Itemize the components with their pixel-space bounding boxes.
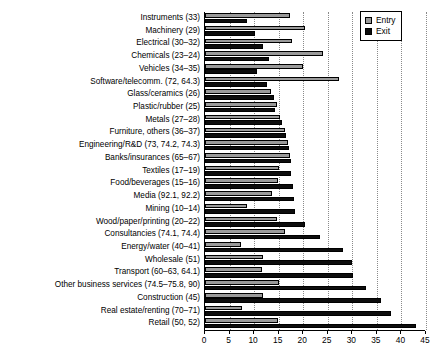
bar-entry [205, 115, 280, 120]
legend-swatch-entry-icon [365, 17, 372, 24]
bar-exit [205, 133, 286, 138]
y-axis-label: Banks/insurances (65–67) [105, 152, 200, 165]
x-axis-tick-labels: 051015202530354045 [204, 334, 425, 348]
x-axis-tick-label: 5 [226, 334, 231, 346]
y-axis-label: Mining (10–14) [145, 203, 200, 216]
y-axis-label: Wholesale (51) [145, 254, 200, 267]
bar-entry [205, 153, 290, 158]
y-axis-label: Instruments (33) [140, 12, 200, 25]
bar-entry [205, 204, 247, 209]
y-axis-label: Retail (50, 52) [149, 317, 200, 330]
bar-entry [205, 293, 263, 298]
bar-exit [205, 31, 255, 36]
bar-exit [205, 44, 263, 49]
x-axis-tick-label: 25 [322, 334, 331, 346]
x-axis-tick-label: 10 [248, 334, 257, 346]
bar-row [205, 177, 425, 190]
y-axis-label: Furniture, others (36–37) [109, 126, 200, 139]
bar-exit [205, 248, 343, 253]
y-axis-label: Other business services (74.5–75.8, 90) [55, 279, 200, 292]
bar-exit [205, 209, 295, 214]
bar-exit [205, 120, 282, 125]
bar-entry [205, 217, 277, 222]
y-axis-label: Transport (60–63, 64.1) [114, 266, 200, 279]
bar-entry [205, 39, 292, 44]
bar-entry [205, 64, 303, 69]
bar-exit [205, 19, 247, 24]
bar-entry [205, 318, 278, 323]
bar-row [205, 279, 425, 292]
bar-exit [205, 159, 291, 164]
y-axis-label: Consultancies (74.1, 74.4) [104, 228, 200, 241]
y-axis-label: Real estate/renting (70–71) [101, 305, 200, 318]
bar-row [205, 165, 425, 178]
bar-exit [205, 222, 305, 227]
bar-exit [205, 171, 291, 176]
x-axis [204, 330, 425, 333]
bar-exit [205, 260, 352, 265]
y-axis-label: Software/telecomm. (72, 64.3) [90, 76, 200, 89]
bar-row [205, 216, 425, 229]
bar-row [205, 152, 425, 165]
bar-exit [205, 95, 274, 100]
bar-entry [205, 255, 263, 260]
bar-row [205, 241, 425, 254]
bar-exit [205, 286, 366, 291]
bar-row [205, 203, 425, 216]
bar-entry [205, 26, 305, 31]
bar-exit [205, 298, 381, 303]
x-axis-tick-label: 45 [420, 334, 429, 346]
bar-row [205, 305, 425, 318]
bar-exit [205, 197, 294, 202]
bar-entry [205, 242, 241, 247]
bar-entry [205, 140, 288, 145]
bar-exit [205, 235, 320, 240]
legend-label-exit: Exit [376, 26, 390, 37]
bar-entry [205, 89, 271, 94]
y-axis-label: Engineering/R&D (73, 74.2, 74.3) [79, 139, 200, 152]
legend-label-entry: Entry [376, 15, 396, 26]
bar-exit [205, 57, 269, 62]
x-axis-tick-label: 15 [273, 334, 282, 346]
bar-exit [205, 69, 257, 74]
y-axis-label: Electrical (30–32) [136, 37, 200, 50]
bar-exit [205, 146, 289, 151]
legend-swatch-exit-icon [365, 28, 372, 35]
gridline [426, 12, 427, 330]
x-axis-tick-label: 30 [347, 334, 356, 346]
legend-item-exit: Exit [365, 26, 396, 37]
x-axis-tick-label: 0 [202, 334, 207, 346]
bar-row [205, 63, 425, 76]
bar-entry [205, 128, 285, 133]
bar-row [205, 228, 425, 241]
bar-exit [205, 311, 391, 316]
y-axis-label: Media (92.1, 92.2) [134, 190, 200, 203]
bar-row [205, 101, 425, 114]
bar-entry [205, 166, 279, 171]
bar-entry [205, 102, 277, 107]
plot-area [204, 12, 425, 330]
bar-row [205, 114, 425, 127]
bar-entry [205, 280, 279, 285]
bar-row [205, 254, 425, 267]
y-axis-label: Construction (45) [137, 292, 200, 305]
y-axis-label: Plastic/rubber (25) [133, 101, 200, 114]
bar-row [205, 292, 425, 305]
y-axis-labels: Instruments (33)Machinery (29)Electrical… [0, 12, 202, 330]
y-axis-label: Machinery (29) [145, 25, 200, 38]
bar-entry [205, 178, 278, 183]
bar-entry [205, 229, 285, 234]
bar-row [205, 126, 425, 139]
y-axis-label: Metals (27–28) [145, 114, 200, 127]
bar-exit [205, 82, 267, 87]
bar-row [205, 317, 425, 330]
bar-row [205, 76, 425, 89]
bar-row [205, 88, 425, 101]
y-axis-label: Textiles (17–19) [142, 165, 200, 178]
bar-entry [205, 306, 242, 311]
bar-exit [205, 273, 353, 278]
x-axis-tick-label: 20 [298, 334, 307, 346]
y-axis-label: Food/beverages (15–16) [110, 177, 200, 190]
legend: Entry Exit [360, 11, 402, 41]
bar-row [205, 266, 425, 279]
